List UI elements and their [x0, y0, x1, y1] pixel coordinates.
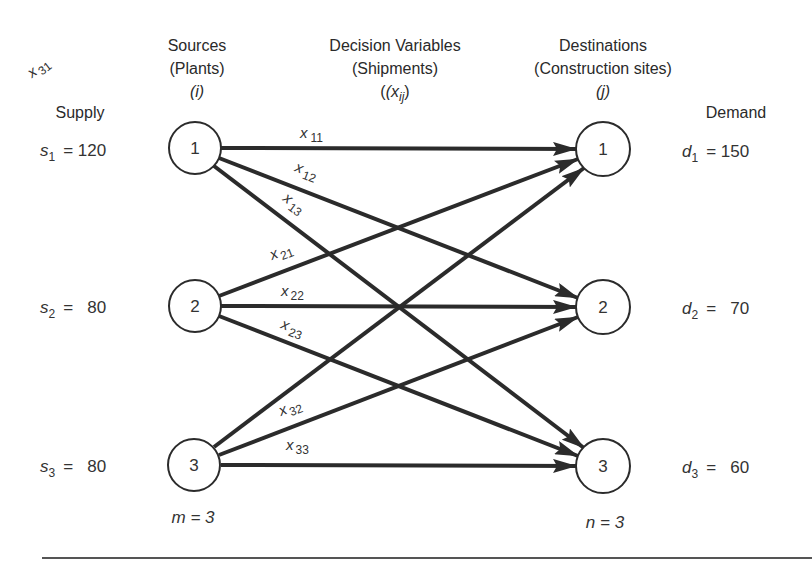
demand-d3: d3= 60 — [682, 458, 749, 481]
source-count: m = 3 — [172, 508, 216, 527]
label-x22: x22 — [280, 282, 304, 303]
decision-variables-header: Decision Variables (Shipments) ((xij) — [329, 37, 460, 104]
supply-s2: s2= 80 — [40, 298, 106, 321]
label-x11: x11 — [299, 124, 323, 145]
demand-values: d1= 150 d2= 70 d3= 60 — [682, 142, 749, 481]
edge-x11 — [221, 148, 576, 149]
edges — [214, 148, 584, 466]
label-x31: x31 — [23, 53, 55, 84]
supply-header: Supply — [56, 104, 105, 121]
destinations-subtitle: (Construction sites) — [534, 60, 672, 77]
demand-header: Demand — [706, 104, 766, 121]
sources-header: Sources (Plants) (i) — [168, 37, 227, 100]
destination-node-3: 3 — [576, 439, 630, 493]
destination-nodes: 1 2 3 — [576, 122, 630, 493]
svg-text:1: 1 — [190, 139, 199, 158]
svg-text:2: 2 — [598, 298, 607, 317]
source-nodes: 1 2 3 — [168, 122, 221, 491]
demand-d1: d1= 150 — [682, 142, 749, 165]
label-x21: x21 — [266, 239, 296, 267]
destination-node-1: 1 — [576, 122, 630, 176]
demand-d2: d2= 70 — [682, 299, 749, 322]
source-node-3: 3 — [168, 439, 220, 491]
sources-index: (i) — [190, 83, 204, 100]
svg-text:3: 3 — [189, 456, 198, 475]
sources-subtitle: (Plants) — [169, 60, 224, 77]
decision-subtitle: (Shipments) — [352, 60, 438, 77]
destinations-title: Destinations — [559, 37, 647, 54]
destinations-header: Destinations (Construction sites) (j) — [534, 37, 672, 100]
decision-title: Decision Variables — [329, 37, 460, 54]
source-node-2: 2 — [169, 280, 221, 332]
supply-s3: s3= 80 — [40, 457, 106, 480]
destinations-index: (j) — [596, 83, 610, 100]
destination-count: n = 3 — [586, 513, 625, 532]
supply-s1: s1= 120 — [40, 141, 106, 164]
destination-node-2: 2 — [576, 280, 630, 334]
svg-text:3: 3 — [598, 457, 607, 476]
label-x33: x33 — [285, 436, 309, 457]
sources-title: Sources — [168, 37, 227, 54]
svg-text:2: 2 — [190, 297, 199, 316]
supply-values: s1= 120 s2= 80 s3= 80 — [40, 141, 106, 480]
source-node-1: 1 — [169, 122, 221, 174]
label-x12: x12 — [291, 158, 321, 186]
transportation-network-diagram: Sources (Plants) (i) Decision Variables … — [0, 0, 812, 561]
decision-index: ((xij) — [380, 83, 409, 104]
svg-text:1: 1 — [598, 140, 607, 159]
edge-x33 — [221, 465, 576, 466]
